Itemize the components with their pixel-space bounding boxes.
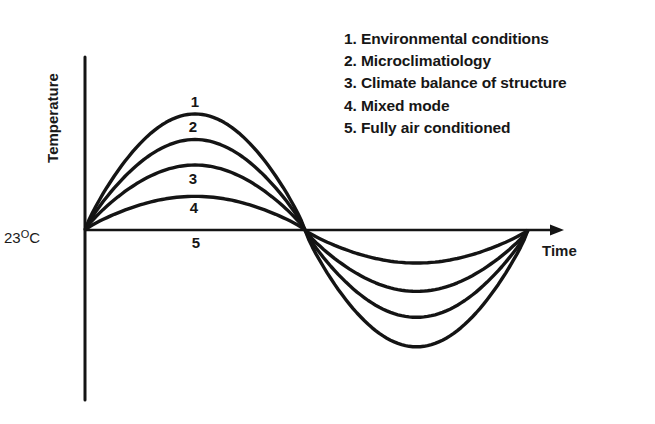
curve-label-2: 2 xyxy=(189,118,197,135)
curve-label-5: 5 xyxy=(192,234,200,251)
x-axis-label: Time xyxy=(542,242,577,259)
curve-label-1: 1 xyxy=(191,93,199,110)
curve-label-3: 3 xyxy=(189,170,197,187)
legend-item-environmental-conditions: 1. Environmental conditions xyxy=(344,28,567,50)
legend-item-mixed-mode: 4. Mixed mode xyxy=(344,95,567,117)
legend-item-climate-balance: 3. Climate balance of structure xyxy=(344,72,567,94)
legend: 1. Environmental conditions 2. Microclim… xyxy=(344,28,567,139)
legend-item-microclimatiology: 2. Microclimatiology xyxy=(344,50,567,72)
legend-item-fully-air-conditioned: 5. Fully air conditioned xyxy=(344,117,567,139)
curve-2 xyxy=(85,140,528,318)
y-axis-label: Temperature xyxy=(44,73,61,163)
curve-3 xyxy=(85,165,528,291)
curve-label-4: 4 xyxy=(190,199,198,216)
baseline-temperature-label: 23OC xyxy=(4,228,40,246)
x-axis-arrowhead xyxy=(550,225,564,236)
